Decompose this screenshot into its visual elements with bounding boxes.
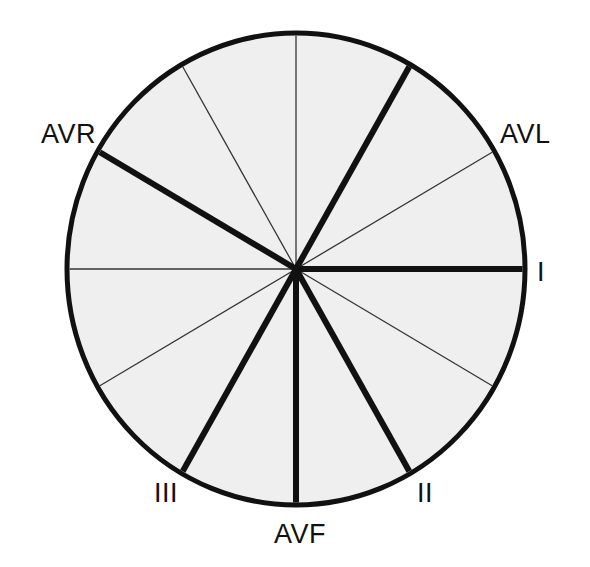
label-avl: AVL <box>500 119 551 149</box>
hexaxial-circle-svg: AVR AVL I II III AVF <box>0 0 590 567</box>
hexaxial-reference-diagram: AVR AVL I II III AVF <box>0 0 590 567</box>
label-lead-ii: II <box>417 478 433 508</box>
label-lead-iii: III <box>154 478 178 508</box>
label-avr: AVR <box>41 119 96 149</box>
label-avf: AVF <box>274 519 326 549</box>
label-lead-i: I <box>537 257 545 287</box>
